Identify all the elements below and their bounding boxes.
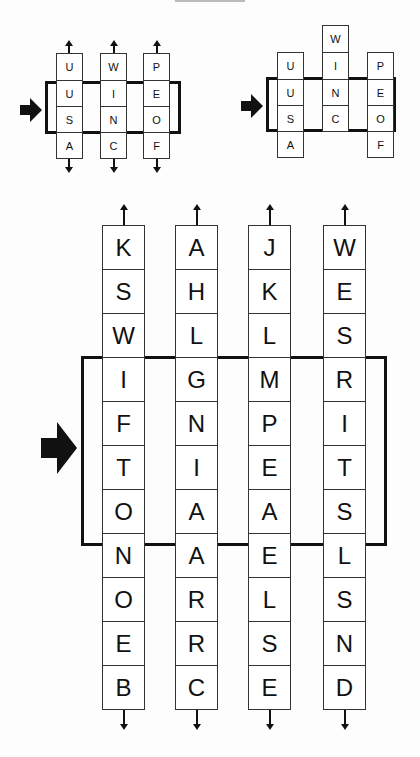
reel-cell: N xyxy=(322,79,349,106)
reel-cell: R xyxy=(175,577,218,622)
arrow-down-icon xyxy=(344,710,346,725)
reel-cell: L xyxy=(248,313,291,358)
reel-cell: O xyxy=(367,105,394,132)
reel-cell: H xyxy=(175,269,218,314)
reel-cell: A xyxy=(248,489,291,534)
arrow-down-icon xyxy=(269,710,271,725)
reel-cell: U xyxy=(277,79,304,106)
reel-cell: N xyxy=(102,533,145,578)
reel-cell: A xyxy=(175,533,218,578)
reel-cell: K xyxy=(248,269,291,314)
reel-cell: I xyxy=(322,52,349,80)
reel-cell: E xyxy=(248,445,291,490)
reel-cell: P xyxy=(143,53,170,81)
reel-cell: W xyxy=(102,313,145,358)
reel-cell: R xyxy=(175,621,218,666)
reel-cell: L xyxy=(175,313,218,358)
reel-cell: E xyxy=(102,621,145,666)
right-arrow-icon xyxy=(241,94,265,118)
reel-cell: S xyxy=(277,105,304,132)
reel-cell: W xyxy=(322,25,349,53)
reel-cell: M xyxy=(248,357,291,402)
reel-cell: T xyxy=(102,445,145,490)
reel-cell: L xyxy=(248,577,291,622)
reel-cell: E xyxy=(143,80,170,107)
arrow-up-icon xyxy=(344,208,346,225)
reel-cell: N xyxy=(100,106,127,133)
reel-cell: A xyxy=(56,132,83,159)
reel-cell: A xyxy=(175,225,218,270)
reel-cell: S xyxy=(248,621,291,666)
reel-cell: A xyxy=(277,131,304,158)
reel-cell: S xyxy=(56,106,83,133)
reel-cell: I xyxy=(323,401,366,446)
reel-cell: S xyxy=(323,313,366,358)
right-arrow-icon xyxy=(20,98,44,122)
reel-cell: O xyxy=(102,577,145,622)
arrow-up-icon xyxy=(123,208,125,225)
reel-cell: A xyxy=(175,489,218,534)
reel-cell: P xyxy=(367,52,394,80)
reel-cell: N xyxy=(323,621,366,666)
reel-cell: D xyxy=(323,665,366,710)
reel-cell: L xyxy=(323,533,366,578)
reel-cell: F xyxy=(143,132,170,159)
reel-cell: I xyxy=(100,80,127,107)
reel-cell: K xyxy=(102,225,145,270)
reel-cell: B xyxy=(102,665,145,710)
reel-cell: R xyxy=(323,357,366,402)
reel-cell: O xyxy=(102,489,145,534)
reel-cell: N xyxy=(175,401,218,446)
reel-cell: U xyxy=(56,80,83,107)
reel-cell: E xyxy=(248,665,291,710)
reel-cell: J xyxy=(248,225,291,270)
reel-cell: P xyxy=(248,401,291,446)
reel-cell: I xyxy=(175,445,218,490)
reel-cell: S xyxy=(323,577,366,622)
arrow-up-icon xyxy=(196,208,198,225)
page-header-rule xyxy=(175,0,245,2)
arrow-down-icon xyxy=(123,710,125,725)
reel-cell: T xyxy=(323,445,366,490)
reel-cell: C xyxy=(322,105,349,132)
reel-cell: I xyxy=(102,357,145,402)
reel-cell: F xyxy=(102,401,145,446)
reel-cell: C xyxy=(175,665,218,710)
reel-cell: S xyxy=(102,269,145,314)
reel-cell: W xyxy=(323,225,366,270)
right-arrow-icon xyxy=(41,422,77,474)
reel-cell: F xyxy=(367,131,394,158)
reel-cell: E xyxy=(248,533,291,578)
reel-cell: G xyxy=(175,357,218,402)
reel-cell: O xyxy=(143,106,170,133)
reel-cell: E xyxy=(323,269,366,314)
reel-cell: W xyxy=(100,53,127,81)
reel-cell: U xyxy=(277,52,304,80)
reel-cell: U xyxy=(56,53,83,81)
reel-cell: S xyxy=(323,489,366,534)
arrow-down-icon xyxy=(196,710,198,725)
reel-cell: C xyxy=(100,132,127,159)
reel-cell: E xyxy=(367,79,394,106)
arrow-up-icon xyxy=(269,208,271,225)
